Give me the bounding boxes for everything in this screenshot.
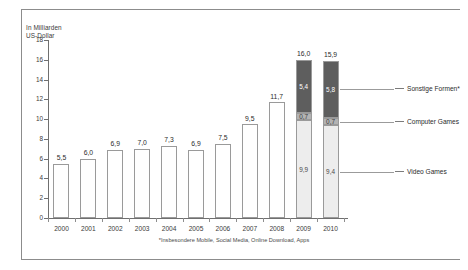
bar-total-label: 7,5 (206, 134, 240, 141)
bar-segment-video[interactable]: 9,9 (296, 120, 312, 218)
legend-leader-line (340, 172, 394, 173)
legend-label: Video Games (407, 168, 447, 175)
chart-figure: In Milliarden US-Dollar 024681012141618 … (0, 0, 468, 270)
segment-value-label: 5,8 (326, 86, 335, 93)
y-tick (44, 40, 48, 41)
segment-value-label: 0,7 (326, 118, 335, 125)
bar[interactable] (242, 124, 258, 218)
y-tick (44, 60, 48, 61)
x-tick (263, 218, 264, 222)
top-divider (22, 9, 460, 10)
bar[interactable] (107, 150, 123, 218)
y-tick (44, 119, 48, 120)
y-tick-label: 16 (24, 56, 43, 63)
legend-item-video[interactable]: Video Games (395, 168, 447, 175)
y-tick-label: 18 (24, 36, 43, 43)
bar-total-label: 6,0 (71, 149, 105, 156)
bar-segment-video[interactable]: 9,4 (323, 125, 339, 218)
bar[interactable] (80, 159, 96, 218)
y-tick-label: 14 (24, 76, 43, 83)
x-tick (48, 218, 49, 222)
y-axis-line (48, 40, 49, 218)
x-tick (156, 218, 157, 222)
y-tick-label: 0 (24, 214, 43, 221)
x-tick (102, 218, 103, 222)
x-tick (290, 218, 291, 222)
y-tick-label: 6 (24, 155, 43, 162)
bar-total-label: 11,7 (260, 93, 294, 100)
bar-segment-other[interactable]: 5,4 (296, 60, 312, 113)
legend-dash-icon (395, 88, 404, 89)
y-tick-label: 12 (24, 95, 43, 102)
bar[interactable] (269, 102, 285, 218)
x-axis-line (48, 218, 348, 219)
y-tick (44, 99, 48, 100)
legend-leader-line (340, 89, 394, 90)
y-tick (44, 80, 48, 81)
segment-value-label: 9,9 (299, 166, 308, 173)
segment-value-label: 0,7 (299, 113, 308, 120)
x-tick (209, 218, 210, 222)
bar-total-label: 9,5 (233, 115, 267, 122)
bar[interactable] (215, 144, 231, 218)
legend-label: Computer Games (407, 118, 459, 125)
bar-segment-other[interactable]: 5,8 (323, 61, 339, 118)
x-tick-label: 2010 (314, 225, 348, 232)
bar[interactable]: 5,40,79,9 (296, 60, 312, 218)
bar[interactable] (188, 150, 204, 218)
x-tick (183, 218, 184, 222)
y-tick-label: 4 (24, 174, 43, 181)
bar-total-label: 15,9 (314, 51, 348, 58)
legend-dash-icon (395, 121, 404, 122)
left-border (21, 9, 22, 260)
bar[interactable] (161, 146, 177, 218)
segment-value-label: 5,4 (299, 83, 308, 90)
bar[interactable] (134, 149, 150, 218)
segment-value-label: 9,4 (326, 168, 335, 175)
bar-segment-computer[interactable]: 0,7 (323, 118, 339, 125)
legend-label: Sonstige Formen* (407, 85, 460, 92)
y-tick-label: 8 (24, 135, 43, 142)
legend-item-computer[interactable]: Computer Games (395, 118, 459, 125)
bar[interactable] (53, 164, 69, 218)
y-tick-label: 2 (24, 194, 43, 201)
legend-dash-icon (395, 171, 404, 172)
y-tick (44, 139, 48, 140)
y-tick (44, 198, 48, 199)
x-tick (236, 218, 237, 222)
legend-item-other[interactable]: Sonstige Formen* (395, 85, 460, 92)
x-tick (344, 218, 345, 222)
x-tick (129, 218, 130, 222)
bar-segment-computer[interactable]: 0,7 (296, 113, 312, 120)
y-tick (44, 178, 48, 179)
legend-leader-line (340, 122, 394, 123)
footnote: *Insbesondere Mobile, Social Media, Onli… (0, 237, 468, 243)
bottom-divider (22, 259, 460, 260)
y-tick-label: 10 (24, 115, 43, 122)
x-tick (75, 218, 76, 222)
x-tick (317, 218, 318, 222)
plot-area: 024681012141618 200020012002200320042005… (48, 40, 344, 218)
bar[interactable]: 5,80,79,4 (323, 61, 339, 218)
